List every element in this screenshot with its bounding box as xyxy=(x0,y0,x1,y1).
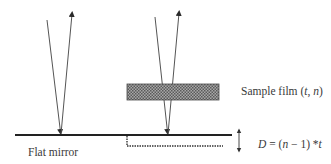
left-incident-ray xyxy=(47,20,61,132)
left-ray-pair xyxy=(47,14,72,134)
sample-film xyxy=(127,84,219,100)
right-ray-pair xyxy=(155,13,179,134)
virtual-mirror-surface xyxy=(127,136,223,146)
displacement-double-arrow xyxy=(237,129,241,153)
left-reflected-ray xyxy=(61,14,72,134)
formula-t-symbol: t xyxy=(319,138,322,150)
formula-part: − 1) * xyxy=(288,138,318,150)
right-reflected-ray xyxy=(168,13,179,134)
formula-part: = ( xyxy=(266,138,282,150)
sample-film-label: Sample film (t, n) xyxy=(241,86,323,98)
sample-film-label-suffix: ) xyxy=(319,85,323,97)
right-incident-ray xyxy=(155,17,168,132)
flat-mirror-label: Flat mirror xyxy=(28,147,78,159)
sample-film-label-prefix: Sample film ( xyxy=(241,85,304,97)
displacement-formula-label: D = (n − 1) *t xyxy=(258,139,322,151)
